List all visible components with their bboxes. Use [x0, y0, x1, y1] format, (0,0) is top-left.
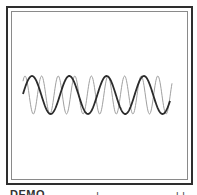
caption-label: DEMO — [10, 189, 45, 195]
dark-sine-wave — [23, 76, 170, 114]
caption-mark-right: ı ı — [176, 189, 185, 195]
wave-plot — [0, 0, 197, 195]
caption-row: DEMO ı ı ı — [0, 188, 197, 195]
caption-mark: ı — [96, 189, 99, 195]
